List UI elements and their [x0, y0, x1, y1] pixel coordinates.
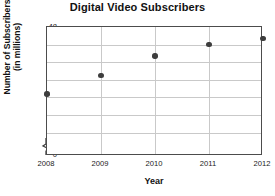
gridline-y-38: [47, 115, 261, 116]
x-axis-label: Year: [46, 176, 262, 186]
x-tick-label-2008: 2008: [26, 160, 66, 168]
gridline-y-46: [47, 45, 261, 46]
y-axis-label-line2: (in millions): [12, 23, 23, 71]
x-tick-label-2012: 2012: [242, 160, 275, 168]
data-point-2009: [98, 73, 103, 78]
chart-title: Digital Video Subscribers: [0, 1, 275, 13]
y-axis-label-line1: Number of Subscribers: [2, 0, 13, 95]
y-axis-label: Number of Subscribers (in millions): [0, 0, 24, 107]
gridline-x-2009: [101, 27, 102, 154]
x-tick-label-2010: 2010: [134, 160, 174, 168]
plot-area: [46, 26, 262, 155]
gridline-x-2010: [155, 27, 156, 154]
data-point-2010: [152, 53, 157, 58]
data-point-2008: [44, 91, 49, 96]
gridline-y-36: [47, 133, 261, 134]
gridline-y-40: [47, 97, 261, 98]
data-point-2012: [260, 36, 265, 41]
gridline-y-42: [47, 80, 261, 81]
x-tick-label-2009: 2009: [80, 160, 120, 168]
gridline-y-44: [47, 62, 261, 63]
data-point-2011: [206, 42, 211, 47]
x-tick-label-2011: 2011: [188, 160, 228, 168]
scatter-plot-figure: Digital Video Subscribers Number of Subs…: [0, 0, 275, 196]
